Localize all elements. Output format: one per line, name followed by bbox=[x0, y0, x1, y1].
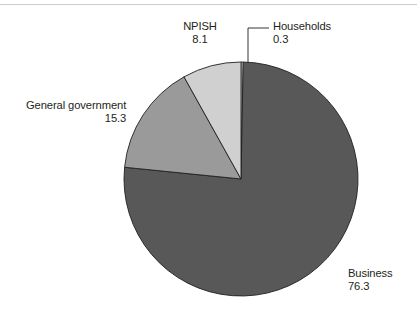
households-leader-line bbox=[248, 28, 269, 63]
slice-label-households-name: Households bbox=[273, 20, 331, 33]
slice-label-npish: NPISH 8.1 bbox=[170, 20, 230, 47]
slice-label-business-value: 76.3 bbox=[348, 280, 393, 293]
pie-chart-figure: Households 0.3 NPISH 8.1 General governm… bbox=[0, 0, 417, 327]
slice-label-households-value: 0.3 bbox=[273, 33, 331, 46]
slice-label-general-government: General government 15.3 bbox=[26, 99, 126, 126]
leader-line-group bbox=[248, 28, 269, 63]
slice-label-households: Households 0.3 bbox=[273, 20, 331, 47]
slice-label-general-government-value: 15.3 bbox=[26, 112, 126, 125]
pie-slice-group bbox=[124, 62, 358, 296]
slice-label-npish-name: NPISH bbox=[170, 20, 230, 33]
slice-label-general-government-name: General government bbox=[26, 99, 126, 112]
slice-label-npish-value: 8.1 bbox=[170, 33, 230, 46]
slice-label-business-name: Business bbox=[348, 267, 393, 280]
slice-label-business: Business 76.3 bbox=[348, 267, 393, 294]
